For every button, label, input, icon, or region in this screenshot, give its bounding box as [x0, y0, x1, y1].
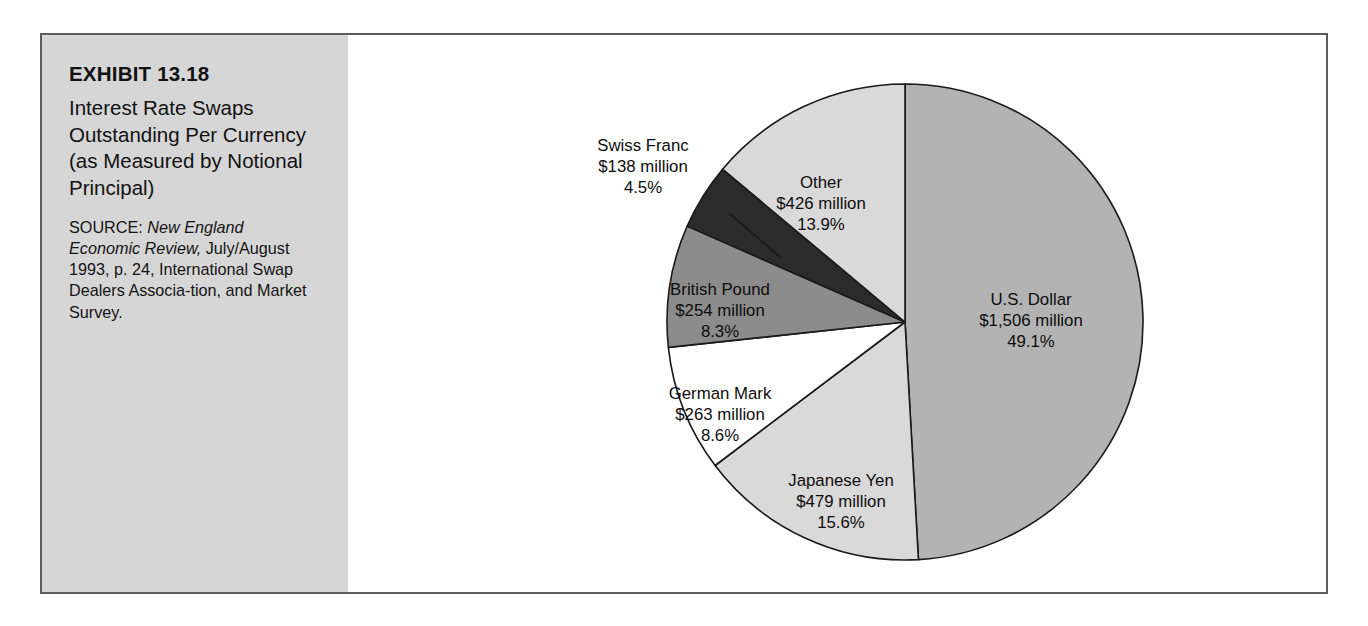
exhibit-source: SOURCE: New England Economic Review, Jul…	[69, 217, 319, 323]
caption-panel: EXHIBIT 13.18 Interest Rate Swaps Outsta…	[42, 35, 348, 592]
pie-slices	[667, 84, 1143, 560]
pie-chart-area: U.S. Dollar $1,506 million 49.1% Japanes…	[348, 35, 1326, 592]
pie-slice-u-s-dollar	[905, 84, 1143, 560]
pie-chart	[348, 35, 1326, 592]
source-label: SOURCE:	[69, 218, 143, 236]
exhibit-frame: EXHIBIT 13.18 Interest Rate Swaps Outsta…	[40, 33, 1328, 594]
exhibit-title: Interest Rate Swaps Outstanding Per Curr…	[69, 95, 321, 202]
exhibit-number: EXHIBIT 13.18	[69, 62, 326, 86]
